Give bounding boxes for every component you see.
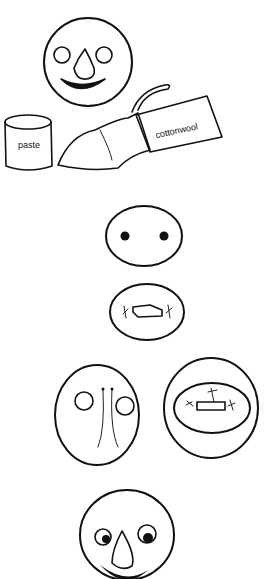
step-eye-holes — [106, 206, 182, 266]
illustration-canvas: paste cottonwool — [0, 0, 272, 579]
step-mouth-frame — [164, 358, 258, 458]
paste-label: paste — [18, 140, 40, 150]
face-illustration-top — [44, 18, 132, 106]
cottonwool-bag-icon: cottonwool — [58, 85, 222, 170]
step-nose-strings — [55, 365, 139, 465]
face-illustration-finished — [80, 490, 174, 579]
paste-can-icon: paste — [5, 115, 52, 170]
step-mouth-piece — [110, 284, 184, 340]
cottonwool-label: cottonwool — [155, 121, 199, 140]
materials-group: paste cottonwool — [5, 18, 222, 170]
